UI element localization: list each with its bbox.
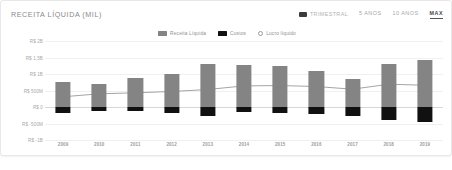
- bar-group[interactable]: [298, 41, 334, 140]
- bar-group[interactable]: [154, 41, 190, 140]
- frequency-swatch-icon: [299, 12, 307, 17]
- legend-item-receita-liquida[interactable]: Receita Líquida: [158, 31, 206, 37]
- y-axis-tick-label: R$ -500M: [22, 121, 43, 126]
- frequency-toggle[interactable]: TRIMESTRAL: [299, 11, 348, 17]
- cost-bar: [417, 107, 432, 122]
- bar-group[interactable]: [407, 41, 443, 140]
- y-axis-tick-label: R$ 2B: [30, 39, 43, 44]
- legend-swatch-icon: [158, 31, 167, 37]
- x-axis-tick-label: 2015: [275, 142, 285, 147]
- x-axis-tick-label: 2014: [239, 142, 249, 147]
- y-axis-tick-label: R$ 500M: [24, 88, 43, 93]
- cost-bar: [164, 107, 179, 113]
- x-axis: 2009201020112012201320142015201620172018…: [45, 142, 443, 153]
- x-axis-tick-label: 2011: [130, 142, 140, 147]
- cost-bar: [92, 107, 107, 111]
- plot-area: [45, 41, 443, 140]
- bar-group[interactable]: [190, 41, 226, 140]
- page-title: RECEITA LÍQUIDA (MIL): [11, 10, 102, 19]
- legend-label: Custos: [230, 31, 246, 36]
- x-axis-tick-label: 2017: [347, 142, 357, 147]
- x-axis-tick-label: 2019: [420, 142, 430, 147]
- x-axis-tick-label: 2009: [58, 142, 68, 147]
- revenue-bar: [92, 84, 107, 107]
- revenue-bar: [309, 71, 324, 107]
- bar-group[interactable]: [262, 41, 298, 140]
- bar-group[interactable]: [81, 41, 117, 140]
- chart-legend: Receita Líquida Custos Lucro líquido: [1, 27, 452, 40]
- revenue-bar: [200, 64, 215, 107]
- x-axis-tick-label: 2018: [384, 142, 394, 147]
- legend-item-lucro-liquido[interactable]: Lucro líquido: [258, 31, 296, 36]
- cost-bar: [381, 107, 396, 120]
- cost-bar: [128, 107, 143, 111]
- bar-group[interactable]: [45, 41, 81, 140]
- revenue-bar: [381, 64, 396, 107]
- revenue-bar: [128, 78, 143, 107]
- cost-bar: [309, 107, 324, 114]
- revenue-bar: [55, 82, 70, 107]
- bar-group[interactable]: [371, 41, 407, 140]
- y-axis-tick-label: R$ -1B: [28, 138, 43, 143]
- range-button-10-anos[interactable]: 10 ANOS: [393, 10, 419, 18]
- x-axis-tick-label: 2016: [311, 142, 321, 147]
- card-header: RECEITA LÍQUIDA (MIL) TRIMESTRAL 5 ANOS …: [1, 1, 452, 27]
- revenue-bar: [273, 66, 288, 107]
- legend-label: Lucro líquido: [266, 31, 296, 36]
- cost-bar: [273, 107, 288, 113]
- range-button-max[interactable]: MAX: [430, 10, 443, 19]
- range-button-5-anos[interactable]: 5 ANOS: [359, 10, 381, 18]
- y-axis-tick-label: R$ 1B: [30, 72, 43, 77]
- gridline: [45, 140, 443, 141]
- legend-swatch-icon: [218, 31, 227, 37]
- x-axis-tick-label: 2012: [166, 142, 176, 147]
- y-axis: R$ 2BR$ 1,5BR$ 1BR$ 500MR$ 0R$ -500MR$ -…: [9, 41, 45, 140]
- bar-group[interactable]: [117, 41, 153, 140]
- cost-bar: [345, 107, 360, 116]
- range-controls: TRIMESTRAL 5 ANOS 10 ANOS MAX: [299, 10, 443, 19]
- legend-circle-icon: [258, 31, 263, 36]
- y-axis-tick-label: R$ 1,5B: [26, 55, 43, 60]
- frequency-label: TRIMESTRAL: [310, 11, 348, 17]
- x-axis-tick-label: 2010: [94, 142, 104, 147]
- revenue-bar: [236, 65, 251, 107]
- cost-bar: [55, 107, 70, 113]
- legend-item-custos[interactable]: Custos: [218, 31, 246, 37]
- bar-group[interactable]: [226, 41, 262, 140]
- revenue-bar: [345, 79, 360, 107]
- bar-group[interactable]: [334, 41, 370, 140]
- cost-bar: [200, 107, 215, 116]
- x-axis-tick-label: 2013: [203, 142, 213, 147]
- revenue-bar: [417, 60, 432, 107]
- revenue-chart-card: RECEITA LÍQUIDA (MIL) TRIMESTRAL 5 ANOS …: [0, 0, 452, 156]
- cost-bar: [236, 107, 251, 112]
- revenue-bar: [164, 74, 179, 107]
- y-axis-tick-label: R$ 0: [33, 105, 43, 110]
- legend-label: Receita Líquida: [170, 31, 206, 36]
